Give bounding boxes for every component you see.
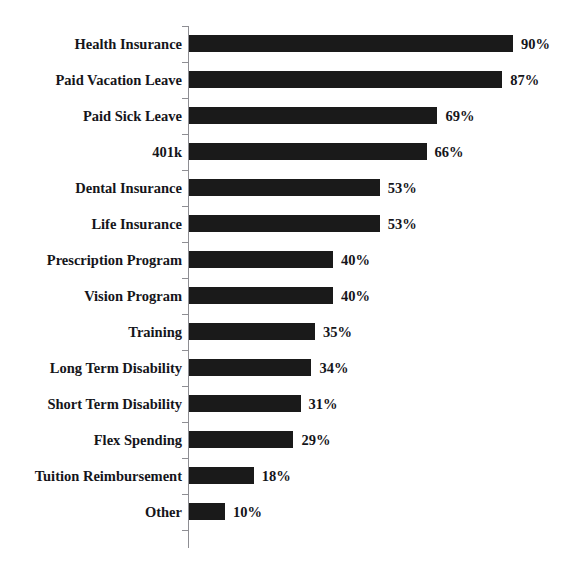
bar-row: Life Insurance53% xyxy=(0,206,584,242)
bar xyxy=(189,503,225,520)
bar xyxy=(189,287,333,304)
bar xyxy=(189,215,380,232)
bar-row: Dental Insurance53% xyxy=(0,170,584,206)
axis-tick xyxy=(182,530,188,531)
bar xyxy=(189,467,254,484)
category-label: Dental Insurance xyxy=(0,170,182,206)
bar-chart: Health Insurance90%Paid Vacation Leave87… xyxy=(0,0,584,565)
category-label: Other xyxy=(0,494,182,530)
category-label: Paid Sick Leave xyxy=(0,98,182,134)
bar-value-label: 69% xyxy=(437,98,474,134)
bar-value-label: 53% xyxy=(380,206,417,242)
category-label: Paid Vacation Leave xyxy=(0,62,182,98)
bar xyxy=(189,143,427,160)
bar-value-label: 18% xyxy=(254,458,291,494)
bar-row: Paid Vacation Leave87% xyxy=(0,62,584,98)
category-label: Short Term Disability xyxy=(0,386,182,422)
bar-value-label: 29% xyxy=(293,422,330,458)
bar-value-label: 90% xyxy=(513,26,550,62)
bar xyxy=(189,71,502,88)
category-label: Health Insurance xyxy=(0,26,182,62)
bar-row: Health Insurance90% xyxy=(0,26,584,62)
bar-value-label: 31% xyxy=(301,386,338,422)
bar xyxy=(189,431,293,448)
category-label: 401k xyxy=(0,134,182,170)
bar-row: Vision Program40% xyxy=(0,278,584,314)
bar xyxy=(189,359,311,376)
bar xyxy=(189,107,437,124)
bar-row: Short Term Disability31% xyxy=(0,386,584,422)
bar xyxy=(189,179,380,196)
bar-row: Other10% xyxy=(0,494,584,530)
category-label: Training xyxy=(0,314,182,350)
bar-row: Tuition Reimbursement18% xyxy=(0,458,584,494)
bar-row: Paid Sick Leave69% xyxy=(0,98,584,134)
bar-value-label: 87% xyxy=(502,62,539,98)
bar-value-label: 10% xyxy=(225,494,262,530)
bar-value-label: 40% xyxy=(333,278,370,314)
bar-value-label: 66% xyxy=(427,134,464,170)
bar xyxy=(189,251,333,268)
category-label: Tuition Reimbursement xyxy=(0,458,182,494)
bar xyxy=(189,395,301,412)
bar xyxy=(189,323,315,340)
bar-row: Flex Spending29% xyxy=(0,422,584,458)
category-label: Long Term Disability xyxy=(0,350,182,386)
category-label: Life Insurance xyxy=(0,206,182,242)
bar xyxy=(189,35,513,52)
category-label: Vision Program xyxy=(0,278,182,314)
bar-value-label: 40% xyxy=(333,242,370,278)
category-label: Prescription Program xyxy=(0,242,182,278)
bar-row: Prescription Program40% xyxy=(0,242,584,278)
bar-row: 401k66% xyxy=(0,134,584,170)
bar-row: Training35% xyxy=(0,314,584,350)
category-label: Flex Spending xyxy=(0,422,182,458)
bar-row: Long Term Disability34% xyxy=(0,350,584,386)
bar-value-label: 35% xyxy=(315,314,352,350)
bar-value-label: 53% xyxy=(380,170,417,206)
bar-value-label: 34% xyxy=(311,350,348,386)
plot-area: Health Insurance90%Paid Vacation Leave87… xyxy=(0,0,584,565)
